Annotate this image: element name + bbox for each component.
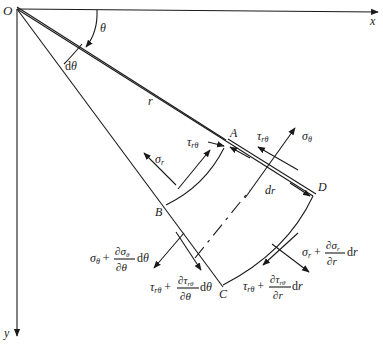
point-A: A — [229, 126, 238, 140]
ray-to-D — [17, 9, 313, 196]
sigma-theta-label: σθ — [302, 129, 312, 144]
svg-text:∂θ: ∂θ — [180, 290, 191, 302]
arc-DC — [223, 196, 313, 285]
theta-arc — [86, 10, 97, 47]
svg-text:dθ: dθ — [200, 280, 212, 294]
sigma-r-plus-label: σr + ∂σr ∂r dr — [302, 239, 358, 267]
svg-text:∂τrθ: ∂τrθ — [178, 274, 194, 288]
svg-text:τrθ +: τrθ + — [243, 279, 264, 294]
theta-label: θ — [100, 21, 106, 35]
tau-rtheta-plus-theta-arrow — [176, 232, 201, 270]
r-label: r — [148, 94, 153, 108]
y-axis-label: y — [3, 326, 10, 340]
tau-rtheta-AD-arrow — [258, 147, 298, 170]
svg-text:dr: dr — [292, 279, 303, 293]
svg-text:∂θ: ∂θ — [116, 261, 127, 273]
svg-text:∂r: ∂r — [327, 255, 337, 267]
svg-text:dr: dr — [347, 245, 358, 259]
tau-rtheta-plus-r-label: τrθ + ∂τrθ ∂r dr — [243, 273, 303, 301]
tau-rtheta-inner-arrow — [178, 150, 210, 189]
polar-stress-element-diagram: O x y θ dθ r A B C D dr σr τrθ τrθ σθ σθ… — [0, 0, 383, 351]
arc-AB — [166, 148, 224, 205]
svg-text:∂σθ: ∂σθ — [115, 245, 130, 259]
svg-text:τrθ +: τrθ + — [150, 280, 171, 295]
sigma-r-label: σr — [155, 152, 165, 167]
x-axis — [17, 9, 378, 12]
point-B: B — [155, 205, 163, 219]
point-D: D — [317, 180, 327, 194]
ray-to-A-parallel — [17, 7, 226, 140]
svg-text:∂r: ∂r — [273, 289, 283, 301]
dr-arrow-to-D — [290, 183, 310, 196]
svg-text:∂τrθ: ∂τrθ — [270, 273, 286, 287]
sigma-theta-plus-label: σθ + ∂σθ ∂θ dθ — [90, 245, 149, 273]
svg-text:σθ +: σθ + — [90, 251, 110, 266]
svg-text:∂σr: ∂σr — [326, 239, 340, 253]
svg-text:dθ: dθ — [137, 251, 149, 265]
tau-rtheta-AD-label: τrθ — [257, 129, 268, 144]
origin-label: O — [3, 3, 13, 18]
tau-rtheta-inner-label: τrθ — [187, 135, 198, 150]
svg-text:σr +: σr + — [302, 245, 321, 260]
dashed-centerline — [195, 190, 250, 258]
dr-label: dr — [265, 183, 276, 197]
dr-arrow-left — [208, 142, 224, 146]
tau-rtheta-plus-theta-label: τrθ + ∂τrθ ∂θ dθ — [150, 274, 212, 302]
dtheta-label: dθ — [65, 59, 77, 73]
x-axis-label: x — [369, 14, 376, 28]
point-C: C — [219, 287, 228, 301]
